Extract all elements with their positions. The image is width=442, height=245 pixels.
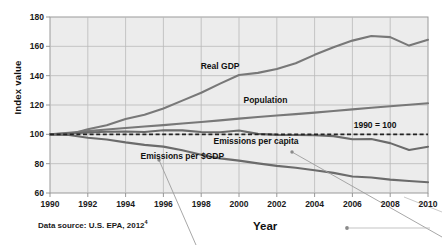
y-tick-140: 140 <box>16 71 44 81</box>
annotation-1990-100: 1990 = 100 <box>354 120 397 130</box>
source-note-superscript: 4 <box>145 219 148 225</box>
chart-figure: of a by the p f p r Index value 60801001… <box>0 0 442 245</box>
x-tick-2000: 2000 <box>219 199 259 209</box>
y-tick-80: 80 <box>16 159 44 169</box>
annotation-population: Population <box>243 95 287 105</box>
leader-dot-emissions-capita <box>290 150 293 153</box>
y-tick-160: 160 <box>16 41 44 51</box>
x-axis-title: Year <box>253 220 277 232</box>
x-tick-1996: 1996 <box>143 199 183 209</box>
source-note: Data source: U.S. EPA, 20124 <box>38 219 148 230</box>
annotation-emissions-per-capita: Emissions per capita <box>213 136 298 146</box>
leader-dot-year <box>345 226 349 230</box>
x-tick-2006: 2006 <box>332 199 372 209</box>
annotation-real-gdp: Real GDP <box>201 61 240 71</box>
y-tick-180: 180 <box>16 12 44 22</box>
x-tick-1994: 1994 <box>106 199 146 209</box>
x-tick-2004: 2004 <box>295 199 335 209</box>
x-tick-2008: 2008 <box>370 199 410 209</box>
x-tick-2002: 2002 <box>257 199 297 209</box>
x-tick-1990: 1990 <box>30 199 70 209</box>
annotation-emissions-per-gdp: Emissions per $GDP <box>140 151 224 161</box>
y-axis-title: Index value <box>12 49 23 127</box>
x-tick-1992: 1992 <box>68 199 108 209</box>
x-tick-1998: 1998 <box>181 199 221 209</box>
y-tick-120: 120 <box>16 100 44 110</box>
y-tick-100: 100 <box>16 129 44 139</box>
x-tick-2010: 2010 <box>408 199 442 209</box>
y-tick-60: 60 <box>16 188 44 198</box>
source-note-text: Data source: U.S. EPA, 2012 <box>38 221 145 230</box>
